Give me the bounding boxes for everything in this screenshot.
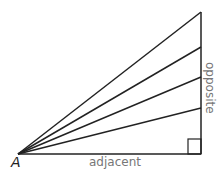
adjacent-label: adjacent — [89, 155, 141, 169]
hypotenuse-ray-2 — [18, 47, 201, 154]
vertex-label: A — [11, 154, 21, 170]
right-angle-marker — [188, 139, 201, 154]
triangle-figure — [0, 0, 223, 181]
hypotenuse-ray-1 — [18, 12, 201, 154]
opposite-label: opposite — [203, 62, 217, 114]
trig-diagram: A adjacent opposite — [0, 0, 223, 181]
